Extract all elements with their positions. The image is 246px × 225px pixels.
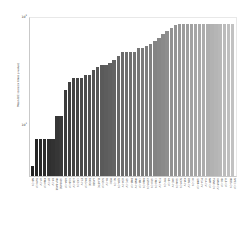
bar (190, 24, 193, 176)
bar (141, 48, 144, 176)
bar (153, 41, 156, 176)
x-tick-label: CNN-CV (154, 178, 157, 188)
x-tick-label: MNB-CV (133, 178, 136, 188)
x-tick-label: PCA-CV (199, 178, 202, 187)
y-axis-label-wrap: Mean BIC score (x times p-value) (14, 30, 24, 140)
bar (43, 139, 46, 176)
x-tick-label: GPC-CV (125, 178, 128, 188)
bar (133, 52, 136, 177)
x-tick-label: BAG-CV (84, 178, 87, 188)
bar (76, 78, 79, 176)
bar (121, 52, 124, 177)
x-tick-label: SGD-CV (100, 178, 103, 188)
x-tick-label: KNN-CV (43, 178, 46, 188)
x-tick-label: UMAP-CV (216, 178, 219, 190)
x-tick-label: RIDGE (88, 178, 91, 186)
bar (227, 24, 230, 176)
bar (214, 24, 217, 176)
x-tick-label: NMF-CV (208, 178, 211, 188)
bar (96, 67, 99, 176)
x-tick-label: RF-CV (51, 178, 54, 186)
x-tick-label: TSNE-CV (212, 178, 215, 189)
x-tick-label: KM-CV (183, 178, 186, 186)
x-tick-label: GMM-CV (195, 178, 198, 189)
x-tick-label: NB-CV (30, 178, 33, 186)
x-tick-label: BNB-CV (129, 178, 132, 188)
bar (218, 24, 221, 176)
bar (104, 65, 107, 176)
x-tick-label: LR-CV (39, 178, 42, 185)
x-tick-label: AE-CV (166, 178, 169, 186)
bar (112, 60, 115, 176)
x-tick-label: LGB-CV (72, 178, 75, 187)
bar (210, 24, 213, 176)
bar (145, 46, 148, 176)
bar (88, 75, 91, 176)
bar (223, 24, 226, 176)
x-tick-label: VAE-CV (171, 178, 174, 187)
bar (39, 139, 42, 176)
bar (100, 65, 103, 176)
bar (72, 78, 75, 176)
x-tick-label: DBS-CV (187, 178, 190, 188)
x-tick-label: DT-CV (47, 178, 50, 186)
bar (59, 116, 62, 176)
bar (35, 139, 38, 176)
plot-area (29, 17, 237, 177)
bar (165, 31, 168, 176)
bar (198, 24, 201, 176)
bar (117, 56, 120, 176)
bar (202, 24, 205, 176)
bar (170, 28, 173, 176)
bar (68, 82, 71, 176)
bar (51, 139, 54, 176)
bar (137, 48, 140, 176)
x-tick-label: GB-BASE (59, 178, 62, 189)
bar (178, 24, 181, 176)
bar (92, 70, 95, 176)
bar (182, 24, 185, 176)
x-tick-label: PERC (109, 178, 112, 184)
x-tick-label: ISO-CV (220, 178, 223, 187)
x-tick-label: ET-CV (80, 178, 83, 185)
x-tick-label: XGB-CV (67, 178, 70, 188)
x-tick-label: RNN-CV (142, 178, 145, 188)
bar (80, 78, 83, 176)
x-tick-cell: SPEC-CV (232, 178, 236, 222)
x-tick-label: CAT-CV (76, 178, 79, 187)
bar (231, 24, 234, 176)
x-tick-label: NC-CV (113, 178, 116, 186)
x-tick-label: SVM-CV (34, 178, 37, 188)
chart-figure: 102 101 Mean BIC score (x times p-value)… (0, 0, 246, 225)
x-tick-label: CNB-CV (138, 178, 141, 188)
x-tick-label: LSTM-CV (146, 178, 149, 189)
x-tick-label: QDA-CV (117, 178, 120, 188)
bar (125, 52, 128, 177)
bar-series (30, 18, 236, 176)
bar (108, 63, 111, 176)
x-tick-label: LASSO (92, 178, 95, 186)
bar (194, 24, 197, 176)
x-tick-label: LLE-CV (224, 178, 227, 187)
x-tick-label: TCN-CV (158, 178, 161, 187)
y-axis-tick-top: 102 (21, 15, 27, 19)
bar (47, 139, 50, 176)
x-tick-label: GRU-CV (150, 178, 153, 188)
x-tick-label: HC-CV (191, 178, 194, 186)
bar (84, 75, 87, 176)
bar (149, 44, 152, 176)
x-tick-label: SOM-CV (179, 178, 182, 188)
x-tick-label: PA-CV (105, 178, 108, 185)
bar (186, 24, 189, 176)
x-tick-label: ICA-CV (204, 178, 207, 187)
bar (157, 38, 160, 176)
x-tick-label: MLP-BASE (55, 178, 58, 190)
bar (64, 90, 67, 176)
x-tick-label: TRF-CV (162, 178, 165, 187)
x-tick-label: GAN-CV (175, 178, 178, 188)
bar (31, 166, 34, 176)
x-tick-label: ADA-CV (63, 178, 66, 188)
x-tick-label: LDA-CV (121, 178, 124, 187)
bar (55, 116, 58, 176)
bar (206, 24, 209, 176)
